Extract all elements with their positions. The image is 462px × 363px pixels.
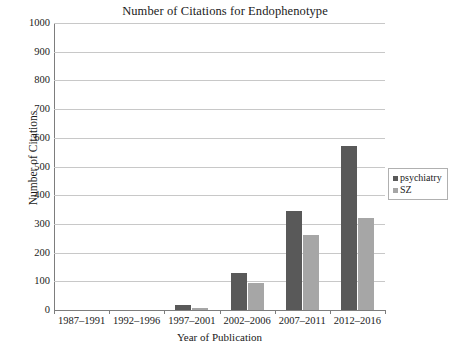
x-tick-label: 1987–1991 (54, 315, 109, 326)
bar-psychiatry-2002–2006 (231, 273, 247, 310)
legend-swatch-icon (393, 188, 398, 193)
x-tick (54, 310, 55, 314)
bar-group (109, 23, 164, 310)
x-axis-title: Year of Publication (54, 331, 385, 343)
x-axis-tick-labels: 1987–19911992–19961997–20012002–20062007… (54, 315, 385, 331)
bar-psychiatry-2012–2016 (341, 146, 357, 310)
bar-group (220, 23, 275, 310)
bar-group (164, 23, 219, 310)
y-tick-label: 0 (4, 305, 50, 315)
x-tick (385, 310, 386, 314)
bar-sz-2007–2011 (303, 235, 319, 310)
legend-swatch-icon (393, 176, 398, 181)
bar-group (330, 23, 385, 310)
x-tick-label: 2007–2011 (275, 315, 330, 326)
bar-sz-2002–2006 (248, 283, 264, 310)
chart-title: Number of Citations for Endophenotype (60, 4, 390, 19)
bar-psychiatry-1997–2001 (175, 305, 191, 310)
legend-label: SZ (400, 184, 412, 196)
x-tick (330, 310, 331, 314)
plot-area (54, 23, 385, 310)
chart-legend: psychiatrySZ (388, 168, 448, 200)
bar-group (275, 23, 330, 310)
x-tick-label: 1992–1996 (109, 315, 164, 326)
legend-label: psychiatry (400, 172, 442, 184)
x-tick-label: 1997–2001 (164, 315, 219, 326)
x-tick (164, 310, 165, 314)
x-tick-label: 2012–2016 (330, 315, 385, 326)
bar-group (54, 23, 109, 310)
y-tick-label: 1000 (4, 18, 50, 28)
x-tick (275, 310, 276, 314)
y-tick-label: 300 (4, 219, 50, 229)
legend-item-psychiatry[interactable]: psychiatry (393, 172, 444, 184)
legend-item-sz[interactable]: SZ (393, 184, 444, 196)
bar-sz-2012–2016 (358, 218, 374, 310)
x-tick (220, 310, 221, 314)
y-tick-label: 700 (4, 104, 50, 114)
y-tick-label: 200 (4, 248, 50, 258)
y-tick-label: 100 (4, 276, 50, 286)
y-tick-label: 500 (4, 162, 50, 172)
y-tick-label: 600 (4, 133, 50, 143)
bar-psychiatry-2007–2011 (286, 211, 302, 310)
y-tick-label: 800 (4, 75, 50, 85)
x-tick (109, 310, 110, 314)
bar-sz-1997–2001 (192, 308, 208, 310)
y-tick-label: 900 (4, 47, 50, 57)
y-tick-label: 400 (4, 190, 50, 200)
y-axis-tick-labels: 10009008007006005004003002001000 (0, 23, 50, 311)
citations-bar-chart: Number of Citations for Endophenotype Nu… (0, 0, 462, 363)
x-tick-label: 2002–2006 (220, 315, 275, 326)
